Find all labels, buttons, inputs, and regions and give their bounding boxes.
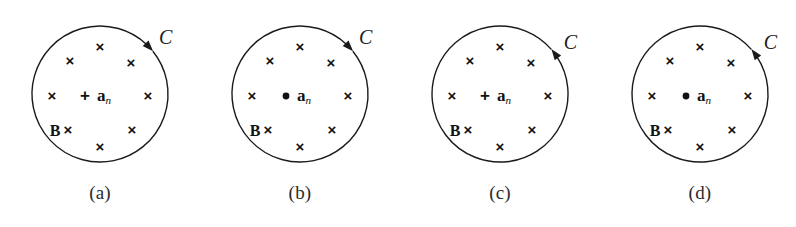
field-cross: × bbox=[264, 121, 273, 138]
normal-vector-subscript: n bbox=[106, 94, 112, 106]
field-cross: × bbox=[544, 87, 553, 104]
normal-vector-subscript: n bbox=[306, 94, 312, 106]
field-cross: × bbox=[328, 121, 337, 138]
panel-c: C××××××××B+an(c) bbox=[400, 0, 600, 227]
field-cross: × bbox=[696, 138, 705, 155]
normal-vector-label: an bbox=[97, 86, 112, 106]
contour-direction-arrowhead bbox=[551, 49, 561, 60]
magnetic-field-label-b: B bbox=[650, 122, 661, 139]
panel-d-caption: (d) bbox=[600, 182, 796, 204]
field-cross: × bbox=[248, 87, 257, 104]
field-cross: × bbox=[96, 38, 105, 55]
field-cross: × bbox=[696, 38, 705, 55]
field-cross: × bbox=[666, 52, 675, 69]
panel-b-diagram: C××××××××Ban bbox=[200, 0, 400, 190]
field-cross: × bbox=[296, 38, 305, 55]
contour-label-c: C bbox=[764, 31, 778, 53]
magnetic-flux-figure: C××××××××B+an(a)C××××××××Ban(b)C××××××××… bbox=[0, 0, 796, 227]
field-cross: × bbox=[464, 121, 473, 138]
field-cross: × bbox=[528, 121, 537, 138]
field-cross: × bbox=[664, 121, 673, 138]
field-cross: × bbox=[728, 121, 737, 138]
field-cross: × bbox=[327, 54, 336, 71]
field-cross: × bbox=[466, 52, 475, 69]
panel-d: C××××××××Ban(d) bbox=[600, 0, 796, 227]
panel-d-diagram: C××××××××Ban bbox=[600, 0, 796, 190]
magnetic-field-label-b: B bbox=[50, 122, 61, 139]
panel-a-caption: (a) bbox=[0, 182, 200, 204]
plus-marker: + bbox=[80, 86, 90, 105]
contour-label-c: C bbox=[359, 26, 373, 48]
field-cross: × bbox=[648, 87, 657, 104]
field-cross: × bbox=[66, 52, 75, 69]
contour-label-c: C bbox=[564, 31, 578, 53]
panel-c-caption: (c) bbox=[400, 182, 600, 204]
dot-marker bbox=[683, 93, 690, 100]
field-cross: × bbox=[744, 87, 753, 104]
magnetic-field-label-b: B bbox=[450, 122, 461, 139]
normal-vector-subscript: n bbox=[706, 94, 712, 106]
field-cross: × bbox=[144, 87, 153, 104]
normal-vector-label: an bbox=[297, 86, 312, 106]
field-cross: × bbox=[128, 121, 137, 138]
field-cross: × bbox=[48, 87, 57, 104]
field-cross: × bbox=[96, 138, 105, 155]
panel-b-caption: (b) bbox=[200, 182, 400, 204]
field-cross: × bbox=[448, 87, 457, 104]
contour-label-c: C bbox=[159, 26, 173, 48]
panel-b: C××××××××Ban(b) bbox=[200, 0, 400, 227]
field-cross: × bbox=[344, 87, 353, 104]
field-cross: × bbox=[296, 138, 305, 155]
field-cross: × bbox=[727, 54, 736, 71]
contour-direction-arrowhead bbox=[751, 49, 761, 60]
field-cross: × bbox=[64, 121, 73, 138]
normal-vector-label: an bbox=[497, 86, 512, 106]
field-cross: × bbox=[266, 52, 275, 69]
panel-a: C××××××××B+an(a) bbox=[0, 0, 200, 227]
dot-marker bbox=[283, 93, 290, 100]
magnetic-field-label-b: B bbox=[250, 122, 261, 139]
field-cross: × bbox=[527, 54, 536, 71]
panel-a-diagram: C××××××××B+an bbox=[0, 0, 200, 190]
field-cross: × bbox=[496, 138, 505, 155]
panel-c-diagram: C××××××××B+an bbox=[400, 0, 600, 190]
plus-marker: + bbox=[480, 86, 490, 105]
normal-vector-label: an bbox=[697, 86, 712, 106]
field-cross: × bbox=[496, 38, 505, 55]
normal-vector-subscript: n bbox=[506, 94, 512, 106]
field-cross: × bbox=[127, 54, 136, 71]
